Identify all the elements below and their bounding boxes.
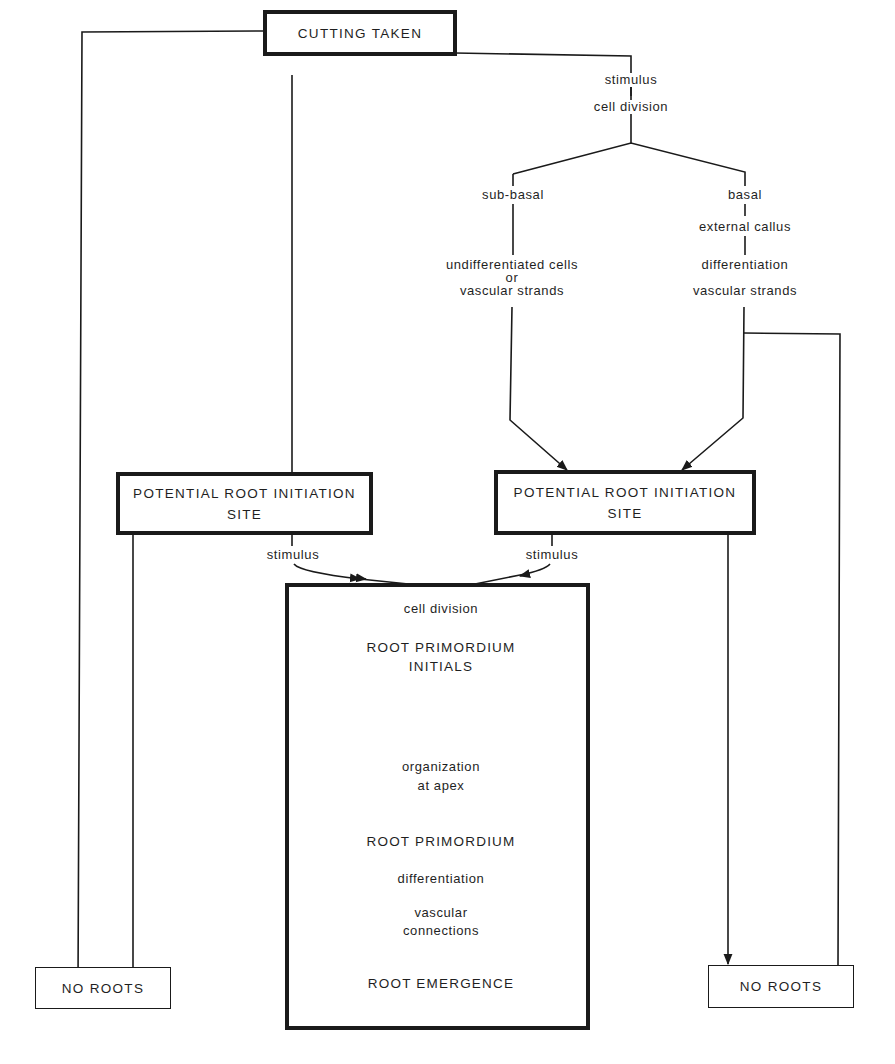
seq-connections: connections: [403, 924, 479, 938]
pris-right-line1: POTENTIAL ROOT INITIATION: [514, 482, 737, 503]
cell-division-top-label: cell division: [594, 100, 668, 114]
seq-organization: organization: [402, 760, 480, 774]
line-cutting-to-stimulus: [455, 53, 631, 143]
basal-label: basal: [728, 188, 762, 202]
seq-vascular: vascular: [414, 906, 467, 920]
seq-root-primordium-initials-2: INITIALS: [409, 660, 473, 674]
no-roots-left-box: NO ROOTS: [35, 967, 171, 1009]
vascular-strands-right-label: vascular strands: [693, 284, 797, 298]
cutting-taken-label: CUTTING TAKEN: [298, 23, 422, 44]
stimulus-left-label: stimulus: [267, 548, 319, 562]
potential-root-initiation-site-right-box: POTENTIAL ROOT INITIATION SITE: [494, 470, 756, 535]
arrow-subbasal-to-pris-right: [510, 307, 567, 470]
seq-root-emergence: ROOT EMERGENCE: [368, 977, 514, 991]
seq-at-apex: at apex: [418, 779, 465, 793]
stimulus-right-label: stimulus: [526, 548, 578, 562]
arrow-stimulus-left: [294, 564, 418, 585]
cutting-taken-box: CUTTING TAKEN: [263, 10, 457, 56]
no-roots-right-label: NO ROOTS: [740, 976, 822, 997]
no-roots-right-box: NO ROOTS: [708, 965, 854, 1008]
pris-left-line2: SITE: [227, 504, 262, 525]
external-callus-label: external callus: [699, 220, 791, 234]
seq-root-primordium-initials-1: ROOT PRIMORDIUM: [367, 641, 516, 655]
arrow-stimulus-right: [470, 564, 550, 585]
stimulus-top-label: stimulus: [605, 73, 657, 87]
line-basal-to-noroots-right: [744, 333, 840, 966]
no-roots-left-label: NO ROOTS: [62, 978, 144, 999]
differentiation-right-label: differentiation: [702, 258, 789, 272]
vascular-strands-left-label: vascular strands: [460, 284, 564, 298]
arrow-basal-to-pris-right: [682, 307, 744, 470]
pris-right-line2: SITE: [607, 503, 642, 524]
seq-root-primordium: ROOT PRIMORDIUM: [367, 835, 516, 849]
seq-cell-division: cell division: [404, 602, 478, 616]
line-fork: [513, 143, 745, 186]
pris-left-line1: POTENTIAL ROOT INITIATION: [133, 483, 356, 504]
potential-root-initiation-site-left-box: POTENTIAL ROOT INITIATION SITE: [116, 472, 373, 535]
seq-differentiation: differentiation: [398, 872, 485, 886]
sub-basal-label: sub-basal: [482, 188, 544, 202]
